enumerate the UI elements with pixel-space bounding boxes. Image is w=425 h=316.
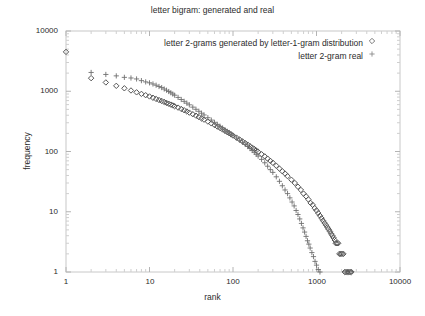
plot-border (66, 31, 400, 272)
plus-marker (150, 81, 155, 86)
plus-marker (369, 51, 374, 56)
plus-marker (297, 216, 302, 221)
plus-marker (274, 174, 279, 179)
plus-marker (139, 78, 144, 83)
plus-marker (282, 187, 287, 192)
series-generated (63, 49, 354, 275)
legend-label-generated: letter 2-grams generated by letter-1-gra… (110, 38, 363, 48)
plot-frame (66, 31, 400, 272)
legend-label-real: letter 2-gram real (110, 51, 363, 61)
chart-figure: letter bigram: generated and real rank f… (0, 0, 425, 316)
diamond-marker (122, 86, 127, 91)
x-tick-1000: 1000 (292, 277, 342, 286)
plus-marker (134, 76, 139, 81)
y-tick-1: 1 (14, 267, 58, 276)
y-tick-1000: 1000 (14, 86, 58, 95)
x-tick-100: 100 (208, 277, 258, 286)
plus-marker (89, 70, 94, 75)
plus-marker (114, 73, 119, 78)
x-tick-10: 10 (125, 277, 175, 286)
plus-marker (308, 245, 313, 250)
diamond-marker (88, 75, 93, 80)
plus-marker (103, 72, 108, 77)
plus-marker (265, 164, 270, 169)
plus-marker (122, 75, 127, 80)
x-tick-1: 1 (41, 277, 91, 286)
y-tick-100: 100 (14, 147, 58, 156)
plus-marker (299, 221, 304, 226)
plus-marker (128, 75, 133, 80)
y-tick-10: 10 (14, 207, 58, 216)
plus-marker (143, 79, 148, 84)
plus-marker (285, 191, 290, 196)
plus-marker (154, 83, 159, 88)
diamond-marker (128, 88, 133, 93)
y-tick-10000: 10000 (14, 26, 58, 35)
x-axis-label: rank (0, 292, 425, 302)
diamond-marker (306, 197, 311, 202)
plus-marker (306, 242, 311, 247)
plus-marker (280, 183, 285, 188)
diamond-marker (103, 80, 108, 85)
axis-ticks (66, 31, 400, 272)
data-points (63, 49, 354, 275)
plus-marker (277, 179, 282, 184)
plus-marker (270, 170, 275, 175)
x-tick-10000: 10000 (375, 277, 425, 286)
plus-marker (156, 84, 161, 89)
diamond-marker (369, 38, 374, 43)
plus-marker (268, 167, 273, 172)
plus-marker (147, 80, 152, 85)
diamond-marker (114, 83, 119, 88)
legend-markers (369, 38, 374, 56)
series-real (89, 70, 323, 275)
chart-title: letter bigram: generated and real (0, 5, 425, 15)
